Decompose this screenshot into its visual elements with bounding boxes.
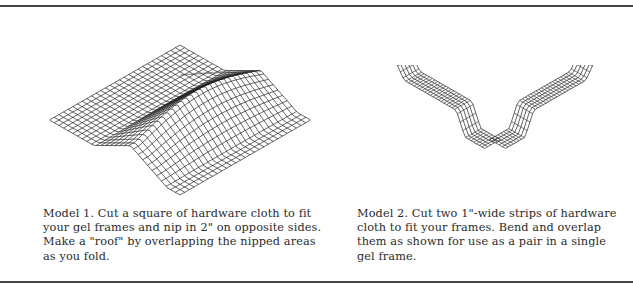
top-rule xyxy=(0,5,633,7)
model-2-illustration xyxy=(390,65,600,175)
model-1-illustration xyxy=(50,40,310,200)
model-1-caption: Model 1. Cut a square of hardware cloth … xyxy=(43,207,323,264)
bottom-rule xyxy=(0,281,633,283)
crossed-strips-mesh-icon xyxy=(390,65,600,175)
roof-mesh-icon xyxy=(50,40,310,200)
model-2-caption: Model 2. Cut two 1"-wide strips of hardw… xyxy=(357,207,627,264)
